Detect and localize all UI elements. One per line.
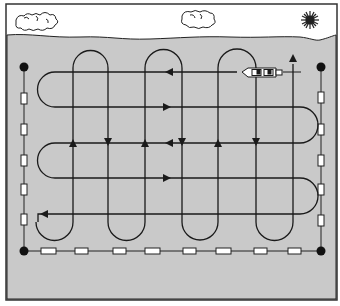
- search-pattern-diagram: Grid search pattern over water area: [0, 0, 340, 306]
